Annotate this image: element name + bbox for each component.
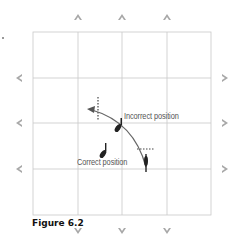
- right-arrow-icon: [222, 119, 228, 127]
- label-incorrect-position: Incorrect position: [124, 111, 179, 121]
- diagram-canvas: [0, 0, 238, 239]
- down-arrow-icon: [74, 228, 82, 234]
- label-correct-position: Correct position: [77, 157, 127, 167]
- right-edge-markers: [222, 74, 228, 173]
- up-arrow-icon: [74, 14, 82, 20]
- left-arrow-icon: [16, 165, 22, 173]
- right-arrow-icon: [222, 165, 228, 173]
- up-arrow-icon: [163, 14, 171, 20]
- down-arrow-icon: [163, 228, 171, 234]
- up-arrow-icon: [118, 14, 126, 20]
- bottom-edge-markers: [74, 228, 171, 234]
- corner-mark: [2, 37, 4, 39]
- left-arrow-icon: [16, 119, 22, 127]
- top-edge-markers: [74, 14, 171, 20]
- left-edge-markers: [16, 74, 22, 173]
- left-arrow-icon: [16, 74, 22, 82]
- down-arrow-icon: [118, 228, 126, 234]
- figure-caption: Figure 6.2: [32, 218, 84, 228]
- right-arrow-icon: [222, 74, 228, 82]
- arrowhead-icon: [87, 106, 95, 113]
